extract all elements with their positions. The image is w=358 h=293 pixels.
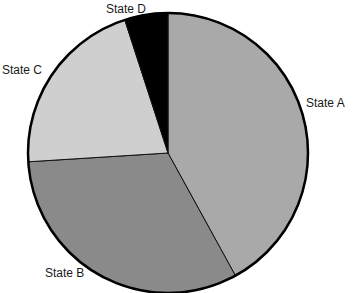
label-state-b: State B <box>45 266 84 280</box>
label-state-c: State C <box>2 63 42 77</box>
pie-chart <box>0 0 358 293</box>
label-state-d: State D <box>106 2 146 16</box>
label-state-a: State A <box>306 96 345 110</box>
